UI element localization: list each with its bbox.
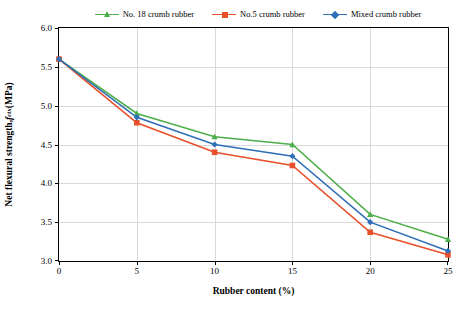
y-tick-label: 3.5 bbox=[41, 217, 52, 227]
legend-label-2: Mixed crumb rubber bbox=[351, 9, 421, 19]
data-point-marker bbox=[212, 149, 218, 155]
y-axis-title-post: (MPa) bbox=[4, 82, 14, 108]
y-tick-label: 5.0 bbox=[41, 101, 52, 111]
legend-line-marker-2 bbox=[323, 10, 347, 19]
y-axis-title-symbol: f bbox=[4, 117, 14, 120]
x-tick-label: 25 bbox=[444, 266, 453, 276]
x-tick-mark bbox=[59, 261, 60, 265]
y-tick-label: 4.0 bbox=[41, 178, 52, 188]
x-tick-label: 10 bbox=[210, 266, 219, 276]
y-tick-label: 4.5 bbox=[41, 140, 52, 150]
x-tick-mark bbox=[137, 261, 138, 265]
chart-legend: No. 18 crumb rubber No.5 crumb rubber Mi… bbox=[58, 6, 458, 22]
x-tick-label: 5 bbox=[135, 266, 140, 276]
data-series-layer bbox=[59, 28, 448, 261]
data-point-marker bbox=[134, 120, 140, 126]
y-axis-title: Net flexural strength, fctx (MPa) bbox=[2, 27, 16, 262]
plot-area: 3.03.54.04.55.05.56.00510152025 bbox=[58, 27, 449, 262]
x-tick-label: 20 bbox=[366, 266, 375, 276]
series-line-2 bbox=[59, 59, 448, 251]
legend-line-marker-1 bbox=[212, 10, 236, 19]
y-axis-title-subscript: ctx bbox=[5, 108, 13, 117]
data-point-marker bbox=[212, 141, 218, 147]
series-line-1 bbox=[59, 59, 448, 255]
x-axis-title: Rubber content (%) bbox=[58, 286, 449, 296]
x-tick-mark bbox=[292, 261, 293, 265]
legend-label-1: No.5 crumb rubber bbox=[240, 9, 305, 19]
y-tick-label: 6.0 bbox=[41, 23, 52, 33]
triangle-marker-icon bbox=[104, 11, 110, 17]
series-line-0 bbox=[59, 59, 448, 239]
legend-label-0: No. 18 crumb rubber bbox=[123, 9, 194, 19]
x-tick-label: 15 bbox=[288, 266, 297, 276]
x-tick-mark bbox=[370, 261, 371, 265]
x-tick-label: 0 bbox=[57, 266, 62, 276]
y-axis-title-pre: Net flexural strength, bbox=[4, 120, 14, 207]
legend-line-marker-0 bbox=[95, 10, 119, 19]
y-tick-label: 5.5 bbox=[41, 62, 52, 72]
y-tick-label: 3.0 bbox=[41, 256, 52, 266]
chart-figure: No. 18 crumb rubber No.5 crumb rubber Mi… bbox=[0, 0, 470, 318]
legend-item-2: Mixed crumb rubber bbox=[323, 9, 421, 19]
x-tick-mark bbox=[447, 261, 448, 265]
diamond-marker-icon bbox=[331, 10, 339, 18]
legend-item-1: No.5 crumb rubber bbox=[212, 9, 305, 19]
square-marker-icon bbox=[222, 12, 228, 18]
data-point-marker bbox=[290, 163, 296, 169]
data-point-marker bbox=[367, 229, 373, 235]
legend-item-0: No. 18 crumb rubber bbox=[95, 9, 194, 19]
x-tick-mark bbox=[215, 261, 216, 265]
